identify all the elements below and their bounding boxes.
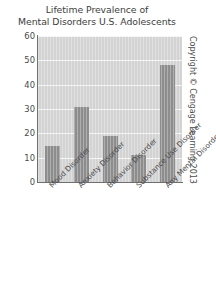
y-axis-tick-label: 50 <box>5 56 35 64</box>
y-axis-tick-label: 30 <box>5 105 35 113</box>
y-axis-line <box>37 35 38 183</box>
x-axis-category-labels: Mood DisorderAnxiety DisorderBehavior Di… <box>38 184 182 280</box>
gridline <box>38 36 182 37</box>
y-axis-tick-label: 40 <box>5 80 35 88</box>
copyright-notice: Copyright © Cengage Learning 2013 <box>185 36 199 182</box>
y-axis-tick-labels: 6050403020100 <box>2 36 35 182</box>
bar <box>74 107 89 182</box>
chart-title: Lifetime Prevalence of Mental Disorders … <box>4 4 190 28</box>
chart-title-line-2: Mental Disorders U.S. Adolescents <box>4 16 190 28</box>
y-axis-tick-label: 0 <box>5 178 35 186</box>
y-axis-tick-label: 60 <box>5 32 35 40</box>
y-axis-tick-label: 10 <box>5 153 35 161</box>
chart-title-line-1: Lifetime Prevalence of <box>4 4 190 16</box>
gridline <box>38 60 182 61</box>
chart-figure: Lifetime Prevalence of Mental Disorders … <box>0 0 216 284</box>
y-axis-tick-label: 20 <box>5 129 35 137</box>
